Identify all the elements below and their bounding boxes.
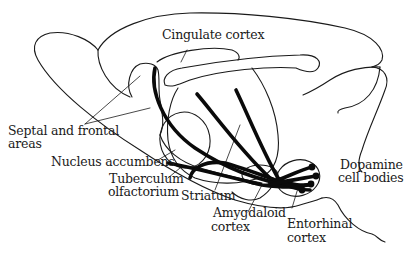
dopamine-cell-body [313,173,320,180]
dopamine-cell-body [308,181,315,188]
label-tuberculum-line2: olfactorium [108,185,179,199]
amygdaloid-outline [232,186,272,200]
label-dopamine-line2: cell bodies [338,171,404,185]
midbrain-line [338,67,380,113]
dopamine-cell-body [299,187,306,194]
label-septal-frontal-line2: areas [8,137,42,151]
leader-septal-1 [85,76,140,124]
label-entorhinal-line1: Entorhinal [287,217,352,231]
label-amygdaloid-line2: cortex [211,220,250,234]
label-cingulate-cortex: Cingulate cortex [162,28,264,42]
label-striatum: Striatum [181,189,235,203]
dopamine-cell-body [309,164,316,171]
label-entorhinal-line2: cortex [287,231,326,245]
leader-entorhinal [292,188,298,208]
frontal-inner-outline [98,50,130,97]
cingulate-outline [157,48,239,62]
corpus-callosum-outline [164,55,319,86]
label-nucleus-accumbens: Nucleus accumbens [51,155,175,169]
label-amygdaloid-line1: Amygdaloid [213,206,286,220]
